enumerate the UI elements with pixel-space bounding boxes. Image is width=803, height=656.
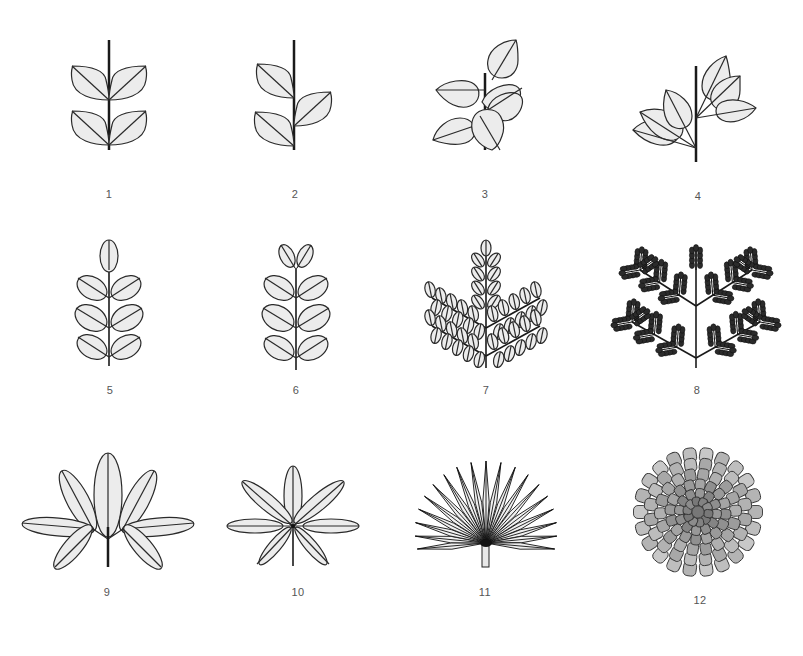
leaf-diagram-1 [60, 38, 160, 158]
palmate-illustration [30, 455, 190, 570]
diagram-label-6: 6 [293, 384, 300, 396]
diagram-label-12: 12 [693, 594, 706, 606]
leaf-diagram-8 [620, 240, 770, 370]
diagram-label-8: 8 [694, 384, 701, 396]
leaf-diagram-5 [75, 238, 145, 368]
diagram-label-3: 3 [482, 188, 489, 200]
diagram-label-7: 7 [483, 384, 490, 396]
leaf-diagram-11 [413, 455, 563, 570]
spiral-leaves-illustration [430, 38, 540, 168]
leaf-diagram-7 [420, 240, 550, 370]
tripinnate-illustration [620, 240, 770, 370]
diagram-label-9: 9 [104, 586, 111, 598]
leaf-diagram-4 [630, 50, 760, 170]
rosette-illustration [633, 450, 763, 575]
palmately-compound-illustration [228, 455, 358, 570]
bipinnate-illustration [420, 240, 550, 370]
leaf-diagram-6 [262, 242, 332, 372]
diagram-label-1: 1 [106, 188, 113, 200]
fascicled-leaves-illustration [630, 50, 760, 170]
leaf-diagram-9 [30, 455, 190, 570]
diagram-label-5: 5 [107, 384, 114, 396]
diagram-label-4: 4 [695, 190, 702, 202]
leaf-diagram-2 [245, 38, 345, 158]
alternate-leaves-illustration [245, 38, 345, 158]
opposite-leaves-illustration [60, 38, 160, 158]
even-pinnate-illustration [262, 242, 332, 372]
diagram-label-11: 11 [479, 586, 491, 598]
leaf-diagram-10 [228, 455, 358, 570]
fan-palm-illustration [413, 455, 563, 570]
leaf-diagram-3 [430, 38, 540, 168]
odd-pinnate-illustration [75, 238, 145, 368]
diagram-label-2: 2 [292, 188, 299, 200]
leaf-diagram-12 [633, 450, 763, 575]
diagram-label-10: 10 [291, 586, 304, 598]
